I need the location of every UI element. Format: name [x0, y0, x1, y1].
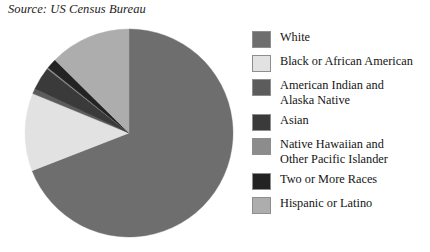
legend-swatch-icon [252, 173, 271, 190]
legend-item-label: Two or More Races [280, 172, 377, 187]
legend-swatch-icon [252, 138, 271, 155]
legend-swatch-icon [252, 197, 271, 214]
pie-chart-svg [0, 0, 252, 252]
pie-chart [0, 0, 252, 252]
legend-swatch-icon [252, 55, 271, 72]
chart-legend: WhiteBlack or African AmericanAmerican I… [252, 30, 430, 245]
chart-page: Source: US Census Bureau WhiteBlack or A… [0, 0, 430, 252]
legend-item[interactable]: Hispanic or Latino [252, 196, 430, 214]
legend-item[interactable]: Two or More Races [252, 172, 430, 190]
legend-item-label: Native Hawaiian and Other Pacific Island… [280, 137, 388, 166]
pie-slices [25, 29, 233, 237]
legend-item[interactable]: American Indian and Alaska Native [252, 78, 430, 107]
legend-item-label: Hispanic or Latino [280, 196, 372, 211]
legend-item[interactable]: Asian [252, 113, 430, 131]
legend-item[interactable]: White [252, 30, 430, 48]
legend-item-label: Black or African American [280, 54, 413, 69]
legend-item[interactable]: Native Hawaiian and Other Pacific Island… [252, 137, 430, 166]
legend-swatch-icon [252, 31, 271, 48]
legend-item-label: White [280, 30, 310, 45]
legend-swatch-icon [252, 114, 271, 131]
legend-swatch-icon [252, 79, 271, 96]
legend-item-label: American Indian and Alaska Native [280, 78, 384, 107]
legend-item[interactable]: Black or African American [252, 54, 430, 72]
legend-item-label: Asian [280, 113, 309, 128]
